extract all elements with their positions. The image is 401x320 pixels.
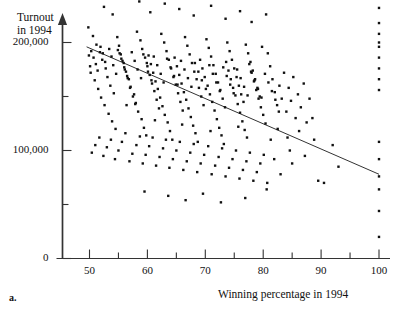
data-point bbox=[214, 164, 216, 166]
data-point bbox=[198, 87, 200, 89]
data-point bbox=[158, 156, 160, 158]
data-point bbox=[378, 158, 380, 160]
data-point bbox=[205, 88, 207, 90]
data-point bbox=[276, 128, 278, 130]
data-point bbox=[131, 51, 133, 53]
data-point bbox=[197, 141, 199, 143]
data-point bbox=[378, 89, 380, 91]
data-point bbox=[124, 68, 126, 70]
data-point bbox=[291, 162, 293, 164]
data-point bbox=[242, 169, 244, 171]
data-point bbox=[135, 144, 137, 146]
data-point bbox=[142, 162, 144, 164]
data-point bbox=[183, 68, 185, 70]
data-point bbox=[250, 21, 252, 23]
data-point bbox=[138, 0, 140, 2]
data-point bbox=[111, 13, 113, 15]
data-point bbox=[194, 132, 196, 134]
data-point bbox=[175, 149, 177, 151]
data-point bbox=[201, 79, 203, 81]
data-point bbox=[227, 69, 229, 71]
data-point bbox=[150, 63, 152, 65]
data-point bbox=[89, 65, 91, 67]
data-point bbox=[166, 121, 168, 123]
data-point bbox=[137, 110, 139, 112]
data-point bbox=[209, 130, 211, 132]
data-point bbox=[106, 146, 108, 148]
data-point bbox=[180, 60, 182, 62]
data-point bbox=[162, 147, 164, 149]
data-point bbox=[95, 43, 97, 45]
data-point bbox=[141, 48, 143, 50]
data-point bbox=[189, 151, 191, 153]
data-point bbox=[238, 177, 240, 179]
data-point bbox=[230, 78, 232, 80]
data-point bbox=[246, 94, 248, 96]
data-point bbox=[264, 73, 266, 75]
data-point bbox=[151, 82, 153, 84]
data-point bbox=[265, 188, 267, 190]
data-point bbox=[87, 26, 89, 28]
data-point bbox=[238, 85, 240, 87]
data-point bbox=[91, 151, 93, 153]
data-points-group bbox=[87, 0, 380, 238]
data-point bbox=[128, 160, 130, 162]
data-point bbox=[140, 118, 142, 120]
data-point bbox=[116, 36, 118, 38]
data-point bbox=[253, 79, 255, 81]
data-point bbox=[378, 22, 380, 24]
data-point bbox=[300, 106, 302, 108]
data-point bbox=[202, 104, 204, 106]
data-point bbox=[264, 122, 266, 124]
data-point bbox=[187, 77, 189, 79]
data-point bbox=[117, 149, 119, 151]
data-point bbox=[151, 136, 153, 138]
data-point bbox=[236, 68, 238, 70]
data-point bbox=[262, 114, 264, 116]
data-point bbox=[183, 91, 185, 93]
data-point bbox=[196, 171, 198, 173]
data-point bbox=[89, 72, 91, 74]
data-point bbox=[228, 50, 230, 52]
data-point bbox=[263, 154, 265, 156]
data-point bbox=[287, 87, 289, 89]
data-point bbox=[115, 73, 117, 75]
data-point bbox=[181, 123, 183, 125]
data-point bbox=[186, 45, 188, 47]
data-point bbox=[261, 46, 263, 48]
data-point bbox=[127, 77, 129, 79]
data-point bbox=[204, 76, 206, 78]
data-point bbox=[147, 70, 149, 72]
data-point bbox=[378, 141, 380, 143]
x-tick-label-50: 50 bbox=[70, 264, 110, 276]
x-tick-label-90: 90 bbox=[301, 264, 341, 276]
data-point bbox=[157, 88, 159, 90]
data-point bbox=[304, 155, 306, 157]
data-point bbox=[94, 144, 96, 146]
data-point bbox=[232, 92, 234, 94]
data-point bbox=[105, 67, 107, 69]
data-point bbox=[292, 76, 294, 78]
data-point bbox=[247, 52, 249, 54]
data-point bbox=[167, 195, 169, 197]
data-point bbox=[278, 110, 280, 112]
data-point bbox=[193, 143, 195, 145]
data-point bbox=[232, 87, 234, 89]
data-point bbox=[378, 41, 380, 43]
data-point bbox=[197, 70, 199, 72]
data-point bbox=[378, 188, 380, 190]
data-point bbox=[136, 68, 138, 70]
data-point bbox=[176, 65, 178, 67]
data-point bbox=[252, 180, 254, 182]
panel-label: a. bbox=[9, 292, 17, 303]
data-point bbox=[173, 56, 175, 58]
data-point bbox=[243, 129, 245, 131]
data-point bbox=[378, 236, 380, 238]
data-point bbox=[240, 93, 242, 95]
data-point bbox=[99, 51, 101, 53]
data-point bbox=[199, 59, 201, 61]
data-point bbox=[146, 62, 148, 64]
data-point bbox=[164, 114, 166, 116]
data-point bbox=[289, 149, 291, 151]
data-point bbox=[139, 39, 141, 41]
